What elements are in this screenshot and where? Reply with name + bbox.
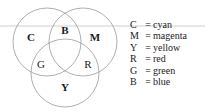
legend-key-blue: B: [130, 76, 143, 87]
legend-key-cyan: C: [130, 19, 143, 30]
legend-equals-cyan: =: [143, 19, 153, 30]
legend-row-green: G = green: [130, 65, 187, 76]
legend-equals-red: =: [143, 53, 153, 64]
legend-value-cyan: cyan: [153, 19, 187, 30]
legend-row-magenta: M = magenta: [130, 30, 187, 41]
color-legend: C = cyan M = magenta Y = yellow R = red …: [130, 19, 187, 87]
legend-value-blue: blue: [153, 76, 187, 87]
legend-value-magenta: magenta: [153, 30, 187, 41]
legend-row-red: R = red: [130, 53, 187, 64]
region-label-cyan: C: [25, 32, 37, 43]
legend-row-yellow: Y = yellow: [130, 42, 187, 53]
legend-key-yellow: Y: [130, 42, 143, 53]
region-label-red: R: [82, 59, 94, 70]
region-label-blue: B: [59, 25, 71, 36]
legend-key-green: G: [130, 65, 143, 76]
legend-equals-yellow: =: [143, 42, 153, 53]
legend-row-cyan: C = cyan: [130, 19, 187, 30]
legend-equals-green: =: [143, 65, 153, 76]
region-label-magenta: M: [88, 32, 102, 43]
region-label-yellow: Y: [59, 82, 71, 93]
legend-row-blue: B = blue: [130, 76, 187, 87]
legend-key-red: R: [130, 53, 143, 64]
legend-equals-blue: =: [143, 76, 153, 87]
legend-value-green: green: [153, 65, 187, 76]
legend-key-magenta: M: [130, 30, 143, 41]
circle-yellow: [31, 39, 99, 107]
legend-value-red: red: [153, 53, 187, 64]
legend-equals-magenta: =: [143, 30, 153, 41]
legend-value-yellow: yellow: [153, 42, 187, 53]
region-label-green: G: [35, 59, 47, 70]
circle-cyan: [13, 8, 81, 76]
venn-diagram-figure: C M Y B G R C = cyan M = magenta Y = yel…: [0, 0, 205, 112]
